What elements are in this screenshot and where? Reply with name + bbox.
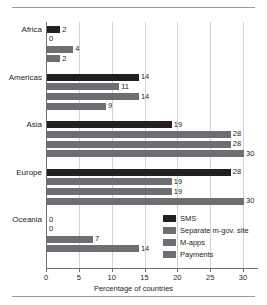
bar <box>47 55 60 62</box>
legend-swatch <box>163 227 176 234</box>
bar <box>47 198 244 205</box>
legend-label: SMS <box>180 214 196 223</box>
bar <box>47 103 106 110</box>
category-label: Oceania <box>12 215 42 224</box>
legend-item[interactable]: Separate m-gov. site <box>163 225 263 236</box>
x-tick-label: 30 <box>239 273 247 282</box>
x-tick-label: 5 <box>77 273 81 282</box>
bar <box>47 74 139 81</box>
bar <box>47 93 139 100</box>
bar <box>47 46 73 53</box>
bar-value-label: 28 <box>233 140 241 148</box>
legend-item[interactable]: M-apps <box>163 237 263 248</box>
bar-value-label: 28 <box>233 168 241 176</box>
bar <box>47 188 172 195</box>
chart-figure: 051015202530 204214111491928283028191930… <box>0 0 267 305</box>
bar <box>47 121 172 128</box>
x-tick <box>112 268 113 272</box>
x-tick <box>79 268 80 272</box>
x-axis-line <box>46 268 258 269</box>
legend-swatch <box>163 215 176 222</box>
legend-item[interactable]: SMS <box>163 213 263 224</box>
bar-value-label: 19 <box>174 121 182 129</box>
category-label: Europe <box>16 168 42 177</box>
bar <box>47 141 231 148</box>
chart-legend: SMSSeparate m-gov. siteM-appsPayments <box>163 213 263 261</box>
bar-value-label: 19 <box>174 188 182 196</box>
bar-value-label: 28 <box>233 130 241 138</box>
x-tick <box>210 268 211 272</box>
bar-value-label: 7 <box>95 235 99 243</box>
bar-value-label: 14 <box>141 73 149 81</box>
legend-swatch <box>163 251 176 258</box>
x-axis-title: Percentage of countries <box>0 284 267 293</box>
x-tick <box>243 268 244 272</box>
bottom-divider-rule <box>12 296 255 297</box>
legend-item[interactable]: Payments <box>163 249 263 260</box>
bar <box>47 26 60 33</box>
x-tick <box>177 268 178 272</box>
legend-swatch <box>163 239 176 246</box>
bar-value-label: 14 <box>141 245 149 253</box>
x-tick-label: 10 <box>107 273 115 282</box>
bar-value-label: 0 <box>49 225 53 233</box>
bar-value-label: 9 <box>108 102 112 110</box>
bar-value-label: 0 <box>49 216 53 224</box>
category-label: Asia <box>26 120 42 129</box>
category-label: Americas <box>9 73 42 82</box>
bar-value-label: 30 <box>246 150 254 158</box>
bar <box>47 245 139 252</box>
x-tick <box>46 268 47 272</box>
legend-label: M-apps <box>180 238 205 247</box>
bar-value-label: 11 <box>121 83 129 91</box>
bar <box>47 178 172 185</box>
bar-value-label: 0 <box>49 35 53 43</box>
bar-value-label: 14 <box>141 93 149 101</box>
category-label: Africa <box>22 25 42 34</box>
x-tick-label: 15 <box>140 273 148 282</box>
x-tick-label: 0 <box>44 273 48 282</box>
bar <box>47 236 93 243</box>
top-divider-rule <box>12 7 255 8</box>
x-tick-label: 20 <box>173 273 181 282</box>
bar-value-label: 2 <box>62 26 66 34</box>
bar <box>47 169 231 176</box>
x-tick-label: 25 <box>206 273 214 282</box>
bar <box>47 131 231 138</box>
bar-value-label: 4 <box>75 45 79 53</box>
bar <box>47 150 244 157</box>
bar-value-label: 19 <box>174 178 182 186</box>
bar-value-label: 2 <box>62 55 66 63</box>
x-tick <box>145 268 146 272</box>
legend-label: Payments <box>180 250 213 259</box>
bar <box>47 83 119 90</box>
bar-value-label: 30 <box>246 197 254 205</box>
legend-label: Separate m-gov. site <box>180 226 249 235</box>
